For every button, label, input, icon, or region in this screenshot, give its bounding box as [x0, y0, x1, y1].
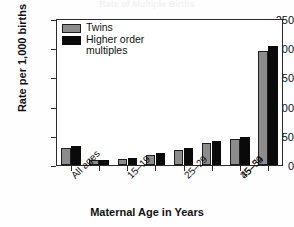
- legend-item-higher-order-multiples: Higher order multiples: [62, 34, 164, 56]
- x-axis-label: Maternal Age in Years: [0, 206, 294, 218]
- legend-label-twins: Twins: [86, 22, 113, 33]
- bar-higher-order-multiples-45-54: [268, 46, 278, 165]
- bar-higher-order-multiples-35-39: [212, 141, 222, 165]
- bar-twins-40-44: [230, 139, 240, 165]
- legend-item-twins: Twins: [62, 22, 164, 33]
- legend: Twins Higher order multiples: [62, 22, 164, 57]
- y-tick-mark: [51, 166, 56, 167]
- bar-higher-order-multiples-15-19: [99, 160, 109, 165]
- bar-higher-order-multiples-40-44: [240, 137, 250, 165]
- bar-twins-20-24: [118, 159, 128, 165]
- bar-twins-45-54: [258, 51, 268, 165]
- cut-off-title: Rate of Multiple Births: [0, 0, 294, 9]
- x-tick-mark: [268, 166, 269, 171]
- x-tick-mark: [99, 166, 100, 171]
- legend-swatch-twins-icon: [62, 24, 81, 33]
- bar-twins-30-34: [174, 150, 184, 165]
- legend-label-hom: Higher order multiples: [86, 34, 164, 56]
- legend-swatch-hom-icon: [62, 36, 81, 45]
- x-tick-mark: [155, 166, 156, 171]
- bar-twins-all-ages: [61, 148, 71, 165]
- x-tick-mark: [212, 166, 213, 171]
- chart-figure: Rate of Multiple Births Rate per 1,000 b…: [0, 0, 294, 227]
- bar-higher-order-multiples-25-29: [156, 153, 166, 165]
- y-axis-label: Rate per 1,000 births: [16, 0, 28, 118]
